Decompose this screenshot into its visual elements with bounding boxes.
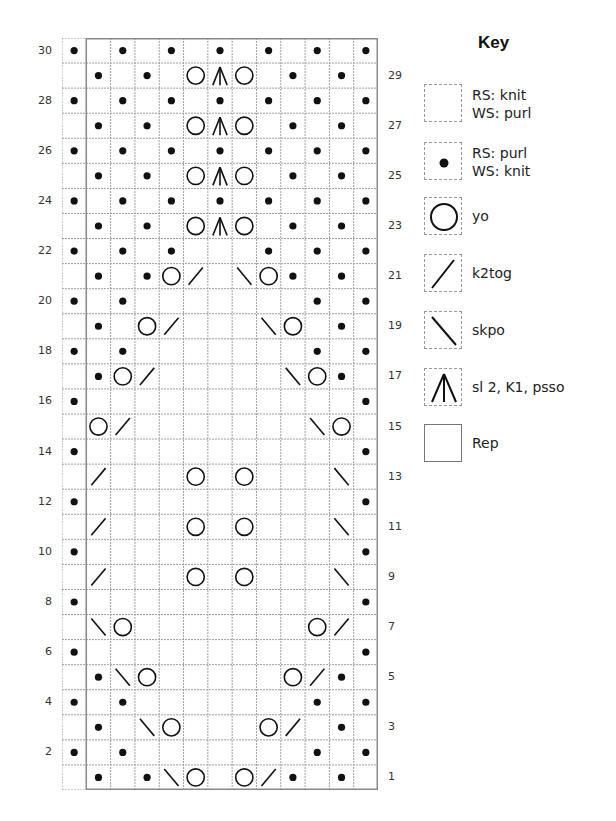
purl-dot-icon <box>71 398 78 405</box>
purl-dot-icon <box>119 247 126 254</box>
purl-dot-icon <box>362 598 369 605</box>
repeat-box-icon <box>424 424 462 462</box>
purl-dot-icon <box>338 674 345 681</box>
purl-dot-icon <box>168 47 175 54</box>
purl-dot-icon <box>216 147 223 154</box>
purl-dot-icon <box>119 699 126 706</box>
skpo-backslash-icon <box>424 311 462 349</box>
purl-dot-icon <box>314 699 321 706</box>
chart-grid <box>62 38 378 790</box>
knitting-chart <box>62 38 378 790</box>
row-number-label: 9 <box>388 570 418 583</box>
row-number-label: 14 <box>22 445 52 458</box>
purl-dot-icon <box>265 147 272 154</box>
row-number-label: 30 <box>22 44 52 57</box>
purl-dot-icon <box>362 498 369 505</box>
purl-dot-icon <box>119 749 126 756</box>
purl-dot-icon <box>71 548 78 555</box>
row-number-label: 4 <box>22 695 52 708</box>
purl-dot-icon <box>143 273 150 280</box>
key-title: Key <box>478 33 509 53</box>
purl-dot-icon <box>338 724 345 731</box>
purl-dot-icon <box>95 674 102 681</box>
purl-dot-icon <box>71 699 78 706</box>
purl-dot-icon <box>362 197 369 204</box>
purl-dot-icon <box>362 749 369 756</box>
purl-dot-icon <box>289 122 296 129</box>
purl-dot-icon <box>168 147 175 154</box>
purl-dot-icon <box>289 72 296 79</box>
purl-dot-icon <box>314 298 321 305</box>
purl-dot-icon <box>314 348 321 355</box>
purl-dot-icon <box>95 122 102 129</box>
purl-dot-icon <box>265 197 272 204</box>
purl-dot-icon <box>314 749 321 756</box>
purl-dot-icon <box>95 222 102 229</box>
purl-dot-icon <box>362 649 369 656</box>
purl-dot-icon <box>362 47 369 54</box>
purl-dot-icon <box>71 348 78 355</box>
purl-dot-icon <box>289 172 296 179</box>
yarn-over-circle-icon <box>424 197 462 235</box>
purl-dot-icon <box>362 398 369 405</box>
purl-dot-icon <box>314 47 321 54</box>
purl-dot-icon <box>71 448 78 455</box>
purl-dot-icon <box>338 774 345 781</box>
purl-dot-icon <box>71 147 78 154</box>
purl-dot-icon <box>314 197 321 204</box>
purl-dot-icon <box>119 97 126 104</box>
key-label-k2tog: k2tog <box>472 264 512 282</box>
purl-dot-icon <box>119 147 126 154</box>
purl-dot-icon <box>119 348 126 355</box>
purl-dot-icon <box>168 247 175 254</box>
purl-dot-icon <box>168 97 175 104</box>
double-decrease-icon <box>424 368 462 406</box>
key-label-line: RS: knit <box>472 86 531 104</box>
row-number-label: 27 <box>388 119 418 132</box>
row-number-label: 16 <box>22 394 52 407</box>
purl-dot-icon <box>143 222 150 229</box>
knit-symbol-icon <box>424 84 462 122</box>
key-label-yo: yo <box>472 207 489 225</box>
purl-dot-icon <box>168 197 175 204</box>
purl-dot-icon <box>71 749 78 756</box>
purl-dot-icon <box>314 247 321 254</box>
row-number-label: 3 <box>388 720 418 733</box>
purl-dot-icon <box>95 273 102 280</box>
key-label-line: RS: purl <box>472 144 530 162</box>
purl-dot-icon <box>362 298 369 305</box>
purl-dot-icon <box>95 172 102 179</box>
purl-dot-icon <box>314 147 321 154</box>
key-label-purl: RS: purl WS: knit <box>472 144 530 180</box>
purl-dot-icon <box>216 197 223 204</box>
purl-dot-icon <box>289 273 296 280</box>
row-number-label: 18 <box>22 344 52 357</box>
purl-dot-icon <box>71 498 78 505</box>
row-number-label: 28 <box>22 94 52 107</box>
purl-dot-icon <box>143 122 150 129</box>
row-number-label: 29 <box>388 69 418 82</box>
purl-dot-icon <box>71 247 78 254</box>
key-label-s2k1psso: sl 2, K1, psso <box>472 378 564 396</box>
purl-dot-icon <box>338 273 345 280</box>
purl-dot-icon <box>362 699 369 706</box>
purl-dot-icon <box>71 298 78 305</box>
row-number-label: 19 <box>388 319 418 332</box>
purl-dot-icon <box>71 47 78 54</box>
purl-dot-icon <box>338 72 345 79</box>
row-number-label: 24 <box>22 194 52 207</box>
purl-dot-icon <box>362 348 369 355</box>
row-number-label: 12 <box>22 495 52 508</box>
purl-dot-icon <box>265 47 272 54</box>
purl-dot-icon <box>338 222 345 229</box>
purl-dot-icon <box>289 774 296 781</box>
row-number-label: 6 <box>22 645 52 658</box>
purl-dot-icon <box>362 97 369 104</box>
purl-dot-icon <box>95 72 102 79</box>
purl-dot-icon <box>265 247 272 254</box>
row-number-label: 13 <box>388 470 418 483</box>
purl-dot-icon <box>362 448 369 455</box>
purl-dot-icon <box>119 298 126 305</box>
row-number-label: 23 <box>388 219 418 232</box>
k2tog-slash-icon <box>424 254 462 292</box>
